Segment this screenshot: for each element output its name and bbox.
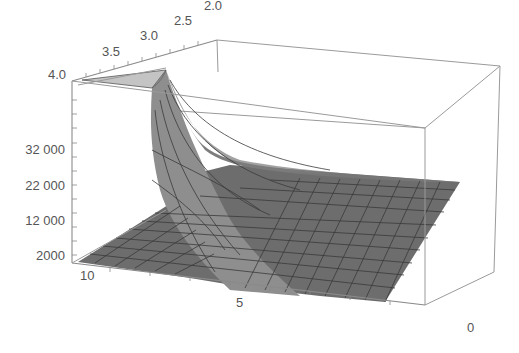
surface-plot-3d: 4.0 3.5 3.0 2.5 2.0 32 000 22 000 12 000… — [0, 0, 519, 353]
x-tick-10: 10 — [80, 268, 94, 283]
y-tick-4-0: 4.0 — [48, 67, 66, 82]
x-tick-5: 5 — [236, 295, 243, 310]
z-axis-labels: 32 000 22 000 12 000 2000 — [25, 142, 65, 263]
y-tick-3-0: 3.0 — [140, 28, 158, 43]
z-tick-22000: 22 000 — [25, 178, 65, 193]
y-tick-2-5: 2.5 — [174, 13, 192, 28]
y-tick-3-5: 3.5 — [102, 44, 120, 59]
y-tick-2-0: 2.0 — [204, 0, 222, 13]
z-tick-12000: 12 000 — [25, 213, 65, 228]
surface-plateau — [82, 70, 166, 88]
x-tick-0: 0 — [467, 320, 474, 335]
z-tick-32000: 32 000 — [25, 142, 65, 157]
z-tick-2000: 2000 — [36, 248, 65, 263]
y-axis-labels: 4.0 3.5 3.0 2.5 2.0 — [48, 0, 222, 82]
